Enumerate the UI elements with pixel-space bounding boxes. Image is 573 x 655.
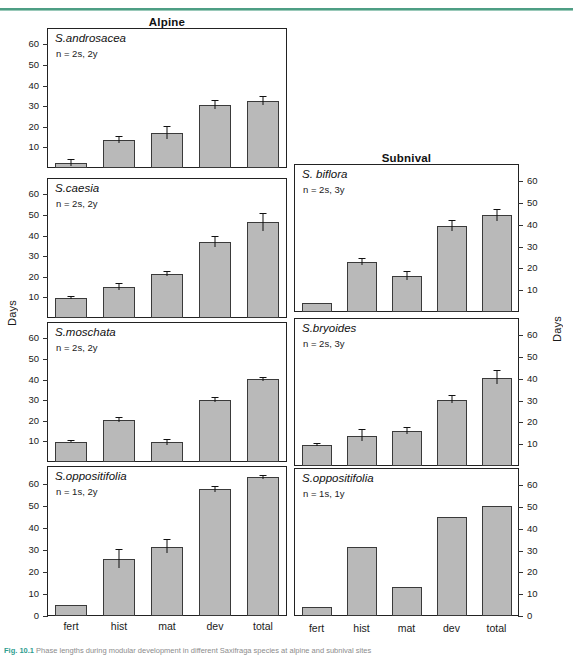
y-axis-tick-label: 30 bbox=[17, 395, 39, 405]
y-axis-tick-label: 60 bbox=[527, 480, 549, 490]
bar-series bbox=[294, 468, 519, 616]
bar-slot bbox=[474, 164, 519, 312]
bar bbox=[151, 547, 183, 616]
error-bar-cap bbox=[212, 100, 219, 101]
bar-slot bbox=[47, 28, 95, 168]
bar-slot bbox=[429, 164, 474, 312]
x-axis-labels-subnival: ferthistmatdevtotal bbox=[294, 620, 519, 634]
panel-soppositifolia: S.oppositifolian = 1s, 1y0102030405060 bbox=[294, 468, 519, 616]
bar bbox=[482, 506, 512, 616]
y-axis-tick-label: 10 bbox=[17, 589, 39, 599]
bar-slot bbox=[474, 468, 519, 616]
y-axis-tick-label: 0 bbox=[527, 611, 549, 621]
error-bar bbox=[451, 396, 452, 403]
y-axis-tick-label: 10 bbox=[17, 142, 39, 152]
bar-slot bbox=[143, 178, 191, 318]
bar-slot bbox=[239, 322, 287, 462]
y-axis-label-left: Days bbox=[6, 300, 18, 326]
y-axis-tick-label: 50 bbox=[527, 198, 549, 208]
y-axis-tick-label: 40 bbox=[17, 375, 39, 385]
error-bar-cap bbox=[212, 486, 219, 487]
error-bar bbox=[215, 101, 216, 109]
error-bar-cap bbox=[358, 429, 365, 430]
bar-series bbox=[47, 28, 287, 168]
bar-slot bbox=[339, 468, 384, 616]
error-bar-cap bbox=[68, 440, 75, 441]
bar-slot bbox=[384, 318, 429, 466]
bar-slot bbox=[429, 318, 474, 466]
y-axis-tick-label: 60 bbox=[17, 189, 39, 199]
y-axis-tick-label: 10 bbox=[17, 436, 39, 446]
y-axis-tick-label: 20 bbox=[527, 417, 549, 427]
error-bar-cap bbox=[403, 427, 410, 428]
error-bar bbox=[406, 272, 407, 281]
bar bbox=[302, 303, 332, 312]
error-bar bbox=[406, 428, 407, 435]
error-bar-cap bbox=[260, 377, 267, 378]
panel-smoschata: S.moschatan = 2s, 2y102030405060 bbox=[47, 322, 287, 462]
x-axis-tick-label: fert bbox=[47, 620, 95, 632]
bar-slot bbox=[95, 28, 143, 168]
bar-slot bbox=[47, 178, 95, 318]
y-axis-tick bbox=[43, 616, 48, 617]
bar bbox=[151, 274, 183, 318]
y-axis-tick-label: 0 bbox=[17, 611, 39, 621]
error-bar-cap bbox=[403, 271, 410, 272]
error-bar-cap bbox=[164, 271, 171, 272]
y-axis-tick-label: 30 bbox=[527, 242, 549, 252]
y-axis-tick-label: 60 bbox=[17, 39, 39, 49]
figure-caption: Fig. 10.1 Phase lengths during modular d… bbox=[4, 646, 570, 655]
error-bar-cap bbox=[116, 549, 123, 550]
bar bbox=[247, 222, 279, 318]
error-bar-cap bbox=[212, 397, 219, 398]
y-axis-tick-label: 50 bbox=[17, 501, 39, 511]
error-bar-cap bbox=[68, 159, 75, 160]
error-bar-cap bbox=[358, 258, 365, 259]
bar-series bbox=[47, 322, 287, 462]
bar-slot bbox=[239, 28, 287, 168]
bar-slot bbox=[339, 164, 384, 312]
y-axis-tick-label: 40 bbox=[527, 524, 549, 534]
bar bbox=[437, 226, 467, 312]
error-bar-cap bbox=[164, 126, 171, 127]
error-bar bbox=[71, 160, 72, 166]
panel-sandrosacea: S.androsacean = 2s, 2y102030405060 bbox=[47, 28, 287, 168]
error-bar-cap bbox=[68, 296, 75, 297]
bar bbox=[437, 400, 467, 466]
y-axis-tick-label: 50 bbox=[527, 352, 549, 362]
bar-slot bbox=[384, 164, 429, 312]
bar-slot bbox=[143, 28, 191, 168]
bar bbox=[103, 287, 135, 318]
error-bar bbox=[215, 237, 216, 247]
y-axis-tick-label: 50 bbox=[17, 354, 39, 364]
bar-slot bbox=[239, 178, 287, 318]
bar-series bbox=[294, 318, 519, 466]
error-bar bbox=[451, 221, 452, 232]
y-axis-tick-label: 30 bbox=[17, 251, 39, 261]
error-bar bbox=[71, 297, 72, 299]
bar bbox=[103, 420, 135, 462]
bar bbox=[199, 242, 231, 318]
bar-slot bbox=[143, 466, 191, 616]
y-axis-tick-label: 20 bbox=[17, 122, 39, 132]
y-axis-tick-label: 20 bbox=[17, 272, 39, 282]
column-title-subnival: Subnival bbox=[294, 152, 519, 164]
caption-body: Phase lengths during modular development… bbox=[36, 646, 371, 655]
bar bbox=[392, 431, 422, 466]
bar bbox=[482, 215, 512, 312]
error-bar-cap bbox=[260, 213, 267, 214]
bar-series bbox=[47, 466, 287, 616]
y-axis-tick-label: 40 bbox=[17, 231, 39, 241]
y-axis-tick-label: 20 bbox=[527, 263, 549, 273]
error-bar-cap bbox=[448, 220, 455, 221]
error-bar bbox=[167, 272, 168, 276]
y-axis-tick-label: 30 bbox=[527, 546, 549, 556]
x-axis-tick-label: fert bbox=[294, 622, 339, 634]
error-bar bbox=[263, 476, 264, 480]
bar bbox=[347, 262, 377, 312]
bar bbox=[302, 607, 332, 616]
error-bar-cap bbox=[212, 236, 219, 237]
bar bbox=[392, 276, 422, 312]
bar bbox=[247, 101, 279, 168]
x-axis-tick-label: total bbox=[474, 622, 519, 634]
